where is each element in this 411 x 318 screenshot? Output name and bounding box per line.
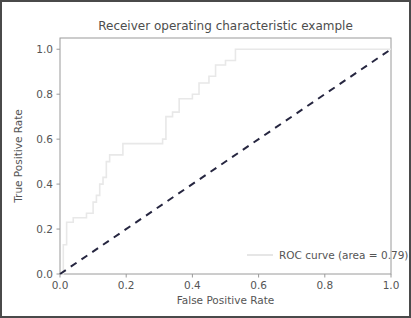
x-tick-label: 0.8 <box>316 279 333 291</box>
legend-label-roc-curve: ROC curve (area = 0.79) <box>279 249 408 261</box>
y-tick-label: 0.0 <box>36 268 53 280</box>
y-tick-label: 0.4 <box>36 178 53 190</box>
x-tick-label: 0.2 <box>118 279 135 291</box>
x-axis-ticks: 0.00.20.40.60.81.0 <box>52 274 400 291</box>
x-tick-label: 0.0 <box>52 279 69 291</box>
roc-chart: Receiver operating characteristic exampl… <box>2 2 411 318</box>
x-tick-label: 0.6 <box>250 279 267 291</box>
y-tick-label: 1.0 <box>36 43 53 55</box>
y-tick-label: 0.2 <box>36 223 53 235</box>
figure-container: Receiver operating characteristic exampl… <box>0 0 411 318</box>
x-tick-label: 0.4 <box>184 279 201 291</box>
y-axis-ticks: 0.00.20.40.60.81.0 <box>36 43 60 280</box>
y-axis-label: True Positive Rate <box>12 109 24 204</box>
x-tick-label: 1.0 <box>383 279 400 291</box>
x-axis-label: False Positive Rate <box>177 294 275 306</box>
y-tick-label: 0.8 <box>36 88 53 100</box>
chart-title: Receiver operating characteristic exampl… <box>98 19 353 33</box>
y-tick-label: 0.6 <box>36 133 53 145</box>
